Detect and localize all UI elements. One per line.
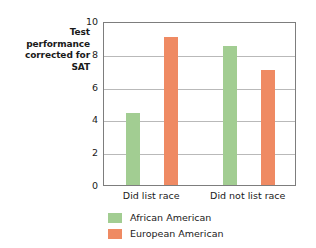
bar xyxy=(126,113,140,185)
y-axis-tick-label: 6 xyxy=(72,82,98,93)
legend-swatch-icon xyxy=(108,213,122,223)
y-axis-tick-label: 8 xyxy=(72,49,98,60)
legend: African AmericanEuropean American xyxy=(108,211,223,243)
y-axis-tick-label: 2 xyxy=(72,147,98,158)
legend-item: European American xyxy=(108,227,223,240)
y-axis-tick-label: 4 xyxy=(72,114,98,125)
x-axis-tick-label: Did list race xyxy=(123,190,180,201)
y-axis-title-line-4: SAT xyxy=(8,62,90,74)
legend-swatch-icon xyxy=(108,229,122,239)
legend-item: African American xyxy=(108,211,223,224)
legend-label: African American xyxy=(130,212,211,223)
y-axis-tick-label: 10 xyxy=(72,16,98,27)
chart-figure: Test performance corrected for SAT 02468… xyxy=(0,0,316,248)
legend-label: European American xyxy=(130,228,223,239)
bar xyxy=(223,46,237,185)
y-axis-tick-label: 0 xyxy=(72,180,98,191)
x-axis-tick-label: Did not list race xyxy=(210,190,285,201)
bar xyxy=(164,37,178,185)
plot-area xyxy=(103,22,296,186)
gridline xyxy=(104,56,295,57)
bar xyxy=(261,70,275,185)
y-axis-title-line-1: Test xyxy=(8,27,90,39)
